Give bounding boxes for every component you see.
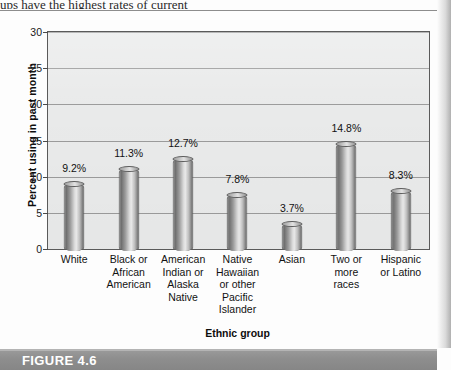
x-axis-category-label-line: Asian [265,253,319,266]
x-axis-category-label: Hispanicor Latino [374,253,428,278]
figure-number-label: FIGURE 4.6 [22,353,97,368]
x-axis-title: Ethnic group [47,327,428,339]
bar-slot: 11.3% [101,31,155,248]
x-axis-category-label-line: or Latino [374,266,428,279]
x-axis-category-label-line: Hispanic [374,253,428,266]
bar-value-label: 12.7% [168,137,198,149]
bar-slot: 8.3% [374,31,428,248]
x-axis-category-label-line: Native [210,253,264,266]
y-axis-tick-label: 30 [30,26,42,38]
x-axis-category-label-line: Black or [101,253,155,266]
bar[interactable] [64,184,85,251]
x-axis-category-label: Asian [265,253,319,266]
bars-layer: 9.2%11.3%12.7%7.8%3.7%14.8%8.3% [47,31,428,248]
bar[interactable] [173,159,194,251]
bar-value-label: 11.3% [114,147,143,159]
x-axis-category-label-line: Native [156,291,210,304]
x-axis-category-label-line: or other [210,278,264,291]
bar-slot: 12.7% [156,31,210,248]
x-axis-category-label-line: Pacific [210,291,264,304]
y-axis-tick-label: 0 [36,243,42,255]
figure-caption-banner: FIGURE 4.6 [0,349,437,370]
bar-value-label: 7.8% [226,173,250,185]
y-axis-tick-label: 10 [30,171,42,183]
bar-slot: 9.2% [47,31,101,248]
x-axis-category-label-line: more [319,266,373,279]
bar-value-label: 14.8% [331,122,361,134]
bar[interactable] [336,144,357,251]
bar[interactable] [281,224,302,251]
x-axis-category-label: Two ormoreraces [319,253,373,291]
y-axis-tick-label: 5 [36,207,42,219]
x-axis-category-label: NativeHawaiianor otherPacificIslander [210,253,264,316]
x-axis-category-label-line: African [101,266,155,279]
bar-slot: 7.8% [210,31,264,248]
x-axis-category-label-line: races [319,278,373,291]
bar-slot: 3.7% [265,31,319,248]
x-axis-category-label: Black orAfricanAmerican [101,253,155,291]
x-axis-category-label-line: Indian or [156,266,210,279]
y-axis-tick-label: 15 [30,135,42,147]
page-body-text-sliver: ups have the highest rates of current [0,0,300,9]
x-axis-category-label-line: White [47,253,101,266]
x-axis-category-label-line: Hawaiian [210,266,264,279]
bar[interactable] [390,191,411,251]
bar-value-label: 8.3% [389,169,413,181]
x-axis-category-label-line: American [156,253,210,266]
y-axis-tick-mark [43,249,48,250]
x-axis-category-label: AmericanIndian orAlaskaNative [156,253,210,303]
y-axis-tick-label: 20 [30,98,42,110]
bar-slot: 14.8% [319,31,373,248]
x-axis-category-label-line: Two or [319,253,373,266]
x-axis-category-labels: WhiteBlack orAfricanAmericanAmericanIndi… [47,253,428,323]
bar-chart-figure: Percent using in past month 051015202530… [0,11,451,348]
x-axis-category-label-line: Islander [210,303,264,316]
x-axis-category-label: White [47,253,101,266]
y-axis-tick-label: 25 [30,62,42,74]
bar-value-label: 9.2% [62,162,86,174]
bar[interactable] [227,195,248,251]
banner-top-edge [0,349,437,351]
bar[interactable] [118,169,139,251]
x-axis-category-label-line: Alaska [156,278,210,291]
x-axis-category-label-line: American [101,278,155,291]
bar-value-label: 3.7% [280,202,304,214]
